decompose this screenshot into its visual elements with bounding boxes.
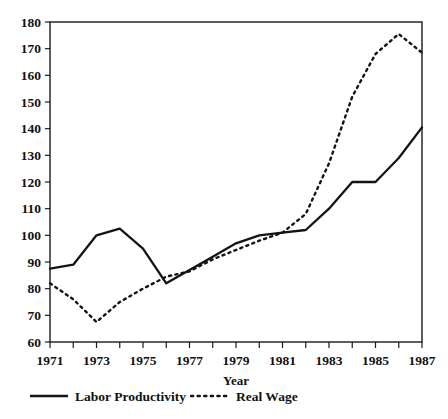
x-tick-label: 1973 — [83, 353, 110, 368]
x-tick-label: 1979 — [223, 353, 250, 368]
y-tick-label: 90 — [28, 255, 42, 270]
y-tick-label: 170 — [21, 41, 42, 56]
y-tick-label: 110 — [21, 201, 41, 216]
y-tick-label: 70 — [28, 308, 42, 323]
legend-label-real-wage: Real Wage — [236, 389, 298, 404]
x-axis-tick-labels: 197119731975197719791981198319851987 — [37, 353, 436, 368]
y-axis-ticks — [45, 22, 50, 342]
y-axis-tick-labels: 60708090100110120130140150160170180 — [21, 15, 42, 350]
y-tick-label: 150 — [21, 95, 42, 110]
y-tick-label: 130 — [21, 148, 42, 163]
x-tick-label: 1977 — [176, 353, 203, 368]
y-tick-label: 100 — [21, 228, 42, 243]
x-tick-label: 1983 — [316, 353, 343, 368]
x-tick-label: 1985 — [362, 353, 389, 368]
x-tick-label: 1987 — [409, 353, 436, 368]
y-tick-label: 160 — [21, 68, 42, 83]
y-tick-label: 180 — [21, 15, 42, 30]
x-tick-label: 1981 — [269, 353, 296, 368]
legend-label-labor-productivity: Labor Productivity — [75, 389, 186, 404]
x-axis-title: Year — [223, 373, 249, 388]
chart-figure: 60708090100110120130140150160170180 1971… — [0, 0, 448, 419]
x-tick-label: 1975 — [130, 353, 157, 368]
x-axis-ticks — [50, 342, 422, 348]
y-tick-label: 120 — [21, 175, 42, 190]
y-tick-label: 80 — [28, 281, 42, 296]
y-tick-label: 140 — [21, 121, 42, 136]
x-tick-label: 1971 — [37, 353, 64, 368]
chart-legend: Labor ProductivityReal Wage — [30, 389, 298, 404]
y-tick-label: 60 — [28, 335, 42, 350]
line-chart: 60708090100110120130140150160170180 1971… — [0, 0, 448, 419]
